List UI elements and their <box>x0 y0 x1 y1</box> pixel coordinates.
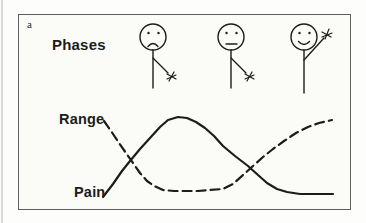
arm-line <box>231 58 246 73</box>
eye-dot <box>147 32 149 34</box>
pain-curve <box>103 117 333 197</box>
range-curve <box>104 120 332 191</box>
phase-figure-3 <box>291 24 332 93</box>
eye-dot <box>225 32 227 34</box>
waving-hand-scribble-icon <box>322 29 332 39</box>
eye-dot <box>235 32 237 34</box>
arm-line <box>153 58 168 73</box>
curves-group <box>103 117 333 197</box>
smile-mouth <box>299 42 310 45</box>
eye-dot <box>308 32 310 34</box>
scanned-figure-panel: a Phases Range Pain <box>0 0 366 223</box>
phase-figure-2 <box>218 24 254 88</box>
eye-dot <box>157 32 159 34</box>
diagram-canvas <box>0 0 366 223</box>
frown-mouth <box>148 44 158 47</box>
happy-face-icon <box>291 24 317 50</box>
neutral-face-icon <box>218 24 244 50</box>
eye-dot <box>298 32 300 34</box>
phase-figure-1 <box>140 24 176 88</box>
sad-face-icon <box>140 24 166 50</box>
